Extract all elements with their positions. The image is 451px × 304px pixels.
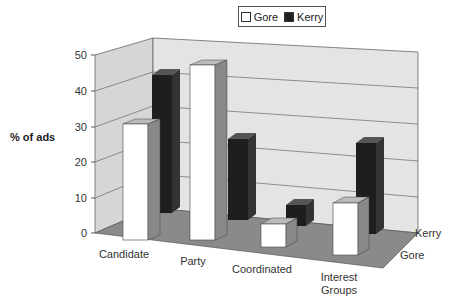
depth-label-gore: Gore [400, 249, 424, 261]
ytick-40: 40 [75, 85, 87, 97]
ytick-10: 10 [75, 192, 87, 204]
chart-3d-bar: 0 10 20 30 40 50 % of ads Candidate Part… [0, 0, 451, 304]
xlabel-interest: Interest [321, 271, 358, 283]
xlabel-candidate: Candidate [99, 248, 149, 260]
depth-label-kerry: Kerry [415, 227, 442, 239]
ytick-50: 50 [75, 49, 87, 61]
ytick-0: 0 [81, 227, 87, 239]
xlabel-coordinated: Coordinated [232, 263, 292, 275]
xlabel-groups: Groups [321, 284, 358, 296]
ytick-20: 20 [75, 156, 87, 168]
y-axis [91, 55, 95, 233]
ytick-30: 30 [75, 121, 87, 133]
xlabel-party: Party [180, 255, 206, 267]
y-axis-label: % of ads [10, 131, 55, 143]
